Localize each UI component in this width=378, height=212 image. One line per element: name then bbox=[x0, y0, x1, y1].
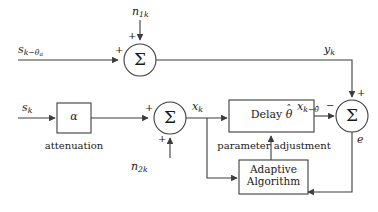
adaptive-box-label: Adaptive Algorithm bbox=[239, 164, 308, 188]
label-delayed-source-subsub: a bbox=[39, 50, 43, 57]
top-summer-top-sign: + bbox=[128, 31, 136, 41]
top-summer-symbol: Σ bbox=[130, 51, 150, 68]
label-delayed-source-sub: k−θ bbox=[24, 48, 40, 57]
label-mixed-signal: xk bbox=[192, 101, 203, 114]
label-delayed-source: sk−θa bbox=[18, 44, 43, 57]
right-summer-symbol: Σ bbox=[342, 107, 362, 124]
label-noise1: n1k bbox=[132, 6, 149, 19]
delay-param: ˆθ bbox=[286, 109, 293, 121]
right-summer-left-sign: − bbox=[326, 101, 334, 111]
attenuator-symbol: α bbox=[57, 111, 91, 123]
parameter-adjustment-label: parameter adjustment bbox=[184, 140, 364, 151]
middle-summer-bottom-sign: + bbox=[158, 134, 166, 144]
label-noise2: n2k bbox=[131, 161, 148, 174]
label-noise2-sub: 2k bbox=[138, 165, 148, 174]
middle-summer-left-sign: + bbox=[145, 103, 153, 113]
label-source: sk bbox=[22, 102, 32, 115]
label-source-sub: k bbox=[28, 106, 33, 115]
label-reference-output: yk bbox=[324, 44, 335, 57]
adaptive-line1: Adaptive bbox=[250, 163, 297, 175]
wire-yk-to-right-summer bbox=[156, 60, 352, 97]
delay-box-label: Delay ˆθ bbox=[229, 109, 314, 121]
diagram-canvas bbox=[0, 0, 378, 212]
top-summer-left-sign: + bbox=[115, 45, 123, 55]
label-reference-output-sub: k bbox=[330, 48, 335, 57]
adaptive-line2: Algorithm bbox=[247, 175, 300, 187]
middle-summer-symbol: Σ bbox=[160, 109, 180, 126]
delay-param-accent: ˆ bbox=[286, 104, 291, 116]
block-diagram: sk−θa sk n1k n2k yk xk xk−θ̂ e + + + + +… bbox=[0, 0, 378, 212]
label-mixed-signal-sub: k bbox=[198, 105, 203, 114]
right-summer-top-sign: + bbox=[357, 88, 365, 98]
label-noise1-sub: 1k bbox=[139, 10, 149, 19]
attenuator-caption: attenuation bbox=[39, 140, 109, 151]
delay-label-text: Delay bbox=[251, 108, 283, 121]
